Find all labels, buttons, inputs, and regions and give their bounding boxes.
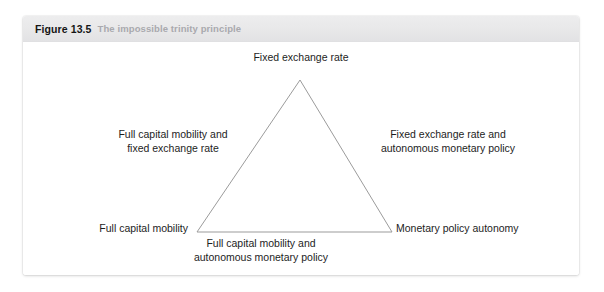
edge-label-base-line2: autonomous monetary policy — [116, 251, 406, 265]
edge-label-full-capital-mobility-and-autonomous-monetary-policy: Full capital mobility and autonomous mon… — [116, 237, 406, 264]
vertex-label-monetary-policy-autonomy: Monetary policy autonomy — [396, 222, 576, 236]
triangle-outline — [197, 80, 392, 232]
edge-label-base-line1: Full capital mobility and — [116, 237, 406, 251]
vertex-label-full-capital-mobility: Full capital mobility — [33, 222, 188, 236]
figure-number: Figure 13.5 — [35, 23, 92, 35]
impossible-trinity-diagram: Fixed exchange rate Full capital mobilit… — [23, 43, 579, 275]
figure-header: Figure 13.5 The impossible trinity princ… — [23, 16, 579, 42]
edge-label-right-line1: Fixed exchange rate and — [323, 128, 573, 142]
edge-label-left-line1: Full capital mobility and — [63, 128, 283, 142]
vertex-label-fixed-exchange-rate: Fixed exchange rate — [23, 51, 579, 65]
edge-label-right-line2: autonomous monetary policy — [323, 142, 573, 156]
edge-label-fixed-exchange-rate-and-autonomous-monetary-policy: Fixed exchange rate and autonomous monet… — [323, 128, 573, 155]
figure-card: Figure 13.5 The impossible trinity princ… — [23, 16, 579, 275]
edge-label-full-capital-mobility-and-fixed-exchange-rate: Full capital mobility and fixed exchange… — [63, 128, 283, 155]
figure-caption: The impossible trinity principle — [98, 23, 242, 34]
edge-label-left-line2: fixed exchange rate — [63, 142, 283, 156]
